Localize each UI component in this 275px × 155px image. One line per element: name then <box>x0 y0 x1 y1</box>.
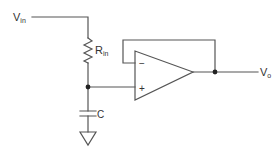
ground-icon <box>80 132 96 145</box>
rin-label-sub: in <box>103 50 109 57</box>
feedback-wire <box>123 40 215 72</box>
vin-wire <box>32 17 88 38</box>
capacitor-c <box>80 111 96 116</box>
vin-label-sub: in <box>20 17 26 24</box>
vin-label: Vin <box>13 11 26 24</box>
junction-dot-output <box>213 70 218 75</box>
rin-label: Rin <box>95 44 109 57</box>
minus-sign: − <box>139 58 145 69</box>
vo-label: Vo <box>260 66 271 79</box>
circuit-diagram: − + Vin Rin C Vo <box>0 0 275 155</box>
rin-label-main: R <box>95 44 103 56</box>
junction-dot-input <box>86 85 91 90</box>
plus-sign: + <box>139 83 145 94</box>
resistor-rin <box>84 38 92 63</box>
vo-label-sub: o <box>267 72 271 79</box>
c-label: C <box>97 109 104 120</box>
